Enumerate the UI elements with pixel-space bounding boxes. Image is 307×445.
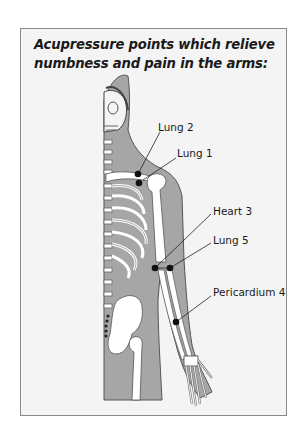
- label-lung-2: Lung 2: [158, 121, 194, 133]
- point-pericardium-4: [173, 319, 180, 326]
- point-heart-3: [152, 265, 159, 272]
- point-lung-5: [167, 265, 174, 272]
- point-lung-1: [136, 180, 143, 187]
- label-lung-1: Lung 1: [177, 147, 213, 159]
- label-pericardium-4: Pericardium 4: [213, 286, 285, 298]
- anatomy-illustration: [0, 0, 307, 445]
- label-heart-3: Heart 3: [213, 205, 252, 217]
- point-lung-2: [135, 171, 142, 178]
- label-lung-5: Lung 5: [213, 234, 249, 246]
